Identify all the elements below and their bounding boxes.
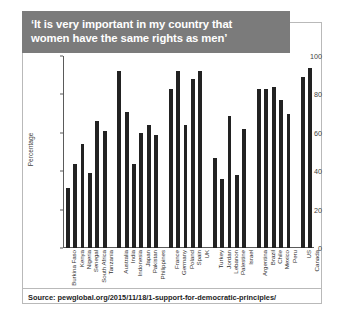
x-tick-label: Kenya [78,250,85,267]
chart-figure: ‘It is very important in my country that… [0,0,345,326]
y-axis-title: Percentage [27,133,34,167]
bar [257,89,261,248]
x-tick-label: Jordan [225,250,232,269]
x-tick-label: South Africa [100,250,107,283]
y-tick-mark [60,248,63,249]
bar [132,164,136,248]
bar [95,121,99,248]
bar [125,112,129,248]
bar [213,158,217,248]
x-tick-label: France [173,250,180,269]
x-tick-label: Poland [188,250,195,269]
bar [279,100,283,248]
x-tick-label: Nigeria [85,250,92,269]
x-tick-label: Brazil [269,250,276,265]
x-tick-label: Philippines [159,250,166,279]
x-tick-label: Japan [144,250,151,267]
bar [235,175,239,248]
x-tick-label: Chile [276,250,283,264]
bar [103,131,107,248]
x-tick-label: Israel [247,250,254,265]
x-tick-label: Senegal [92,250,99,272]
bar [117,71,121,248]
x-tick-label: Pakistan [151,250,158,273]
chart-title-banner: ‘It is very important in my country that… [22,11,290,53]
y-tick-mark [60,171,63,172]
bar [139,133,143,248]
x-tick-label: Australia [122,250,129,274]
source-note: Source: pewglobal.org/2015/11/18/1-suppo… [22,290,322,302]
x-tick-label: Spain [195,250,202,266]
bar [272,87,276,248]
bar [220,179,224,248]
x-tick-label: Turkey [217,250,224,268]
bar [81,144,85,248]
bar [228,116,232,248]
x-tick-label: UK [203,250,210,259]
chart-title-line-1: ‘It is very important in my country that [31,17,281,31]
x-tick-label: Palestine [239,250,246,275]
x-tick-label: Germany [180,250,187,275]
y-tick-mark [60,209,63,210]
x-tick-label: Argentina [261,250,268,276]
y-tick-mark [60,132,63,133]
bar [147,125,151,248]
bar [198,71,202,248]
x-tick-label: India [129,250,136,263]
x-tick-label: Peru [291,250,298,263]
y-tick-mark [60,94,63,95]
bar [73,164,77,248]
bar [154,135,158,248]
x-tick-label: US [305,250,312,259]
x-tick-label: Lebanon [232,250,239,274]
bar [169,89,173,248]
x-tick-label: Indonesia [136,250,143,276]
y-tick-mark [60,56,63,57]
chart-title-line-2: women have the same rights as men’ [31,31,281,45]
footer-divider [22,288,322,289]
bar-series [64,56,314,248]
x-tick-label: Burkina Faso [70,250,77,286]
bar [176,71,180,248]
x-tick-label: Tanzania [107,250,114,274]
bar [88,173,92,248]
bar [301,77,305,248]
bar [66,188,70,248]
bar [242,129,246,248]
bar [191,79,195,248]
x-tick-label: Canada [313,250,320,271]
bar [308,68,312,248]
bar [287,114,291,248]
bar [264,89,268,248]
bar [184,125,188,248]
plot-area: Percentage 020406080100 Burkina FasoKeny… [22,50,322,288]
x-tick-label: Mexico [283,250,290,269]
